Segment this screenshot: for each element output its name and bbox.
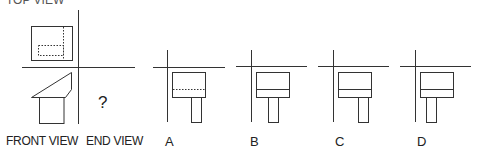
front-view [32,73,72,124]
end-view-label: END VIEW [86,134,143,148]
option-b-drawing [236,50,307,123]
option-c-drawing [318,50,389,123]
option-a-label[interactable]: A [165,134,173,149]
option-b-label[interactable]: B [250,134,258,149]
option-c-label[interactable]: C [335,134,344,149]
front-view-label: FRONT VIEW [6,134,78,148]
top-view [32,27,73,61]
orthographic-diagram [0,0,479,153]
option-d-drawing [400,50,471,123]
unknown-end-view-mark: ? [98,93,107,113]
option-d-label[interactable]: D [417,134,426,149]
option-a-drawing [153,50,225,123]
